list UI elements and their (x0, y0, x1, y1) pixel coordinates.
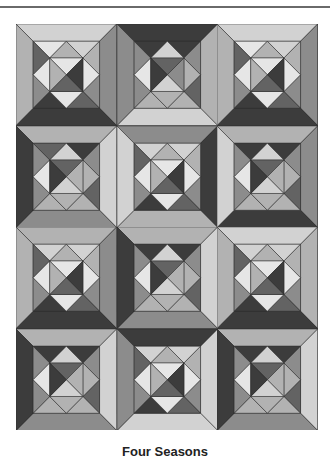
quilt-patch (217, 126, 234, 228)
quilt-patch (217, 126, 318, 143)
quilt-block (16, 126, 117, 228)
quilt-patch (117, 126, 134, 228)
quilt-patch (217, 108, 318, 125)
quilt-patch (16, 24, 33, 126)
quilt-patch (16, 227, 33, 329)
quilt-block (117, 329, 218, 431)
quilt-patch (217, 227, 318, 244)
quilt-patch (217, 227, 234, 329)
quilt-patch (16, 311, 117, 328)
quilt-block (117, 126, 218, 228)
quilt-block (16, 24, 117, 126)
quilt-patch (117, 311, 218, 328)
quilt-patch (217, 24, 234, 126)
quilt-patch (117, 227, 218, 244)
quilt-patch (16, 210, 117, 227)
quilt-patch (200, 126, 217, 228)
quilt-block (217, 126, 318, 228)
quilt-patch (16, 24, 117, 41)
quilt-block (217, 24, 318, 126)
quilt-image (16, 24, 318, 430)
quilt-patch (217, 329, 234, 431)
quilt-patch (16, 126, 117, 143)
quilt-patch (117, 126, 218, 143)
quilt-block (217, 329, 318, 431)
quilt-patch (100, 126, 117, 228)
quilt-patch (301, 24, 318, 126)
quilt-patch (200, 329, 217, 431)
quilt-patch (117, 210, 218, 227)
top-rule (0, 6, 330, 8)
quilt-patch (16, 329, 33, 431)
quilt-patch (301, 126, 318, 228)
quilt-patch (16, 108, 117, 125)
quilt-patch (117, 329, 134, 431)
quilt-block (117, 227, 218, 329)
quilt-patch (200, 24, 217, 126)
quilt-patch (217, 24, 318, 41)
quilt-patch (217, 329, 318, 346)
quilt-patch (117, 24, 218, 41)
quilt-block (16, 329, 117, 431)
quilt-block (217, 227, 318, 329)
quilt-patch (217, 210, 318, 227)
quilt-patch (100, 227, 117, 329)
quilt-patch (16, 227, 117, 244)
quilt-block (117, 24, 218, 126)
quilt-patch (117, 108, 218, 125)
quilt-patch (16, 413, 117, 430)
quilt-patch (117, 329, 218, 346)
quilt-patch (16, 329, 117, 346)
quilt-patch (301, 329, 318, 431)
quilt-patch (117, 227, 134, 329)
quilt-patch (100, 329, 117, 431)
quilt-patch (117, 413, 218, 430)
quilt-caption: Four Seasons (0, 444, 330, 459)
quilt-patch (301, 227, 318, 329)
quilt-block (16, 227, 117, 329)
quilt-patch (217, 311, 318, 328)
quilt-patch (117, 24, 134, 126)
quilt-patch (16, 126, 33, 228)
quilt-patch (200, 227, 217, 329)
quilt-patch (217, 413, 318, 430)
quilt-patch (100, 24, 117, 126)
